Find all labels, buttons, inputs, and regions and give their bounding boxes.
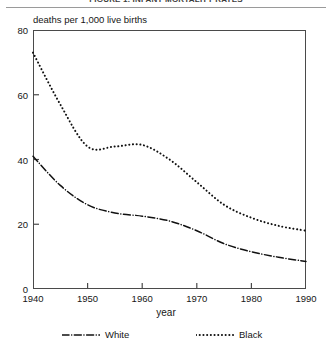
x-tick-label: 1940 xyxy=(13,293,53,304)
legend-entry-white: White xyxy=(62,329,129,340)
y-tick-label: 40 xyxy=(2,154,28,165)
x-tick-label: 1950 xyxy=(68,293,108,304)
legend-label: White xyxy=(105,329,129,340)
legend-swatch-dash-dot xyxy=(62,330,100,340)
x-tick-label: 1970 xyxy=(177,293,217,304)
legend-entry-black: Black xyxy=(196,329,262,340)
x-tick-label: 1990 xyxy=(286,293,326,304)
x-tick-label: 1960 xyxy=(122,293,162,304)
y-tick-label: 20 xyxy=(2,219,28,230)
tick-marks xyxy=(33,95,251,289)
chart-legend: WhiteBlack xyxy=(0,327,332,343)
y-tick-label: 80 xyxy=(2,25,28,36)
legend-label: Black xyxy=(239,329,262,340)
data-series-layer xyxy=(33,53,306,262)
x-tick-label: 1980 xyxy=(231,293,271,304)
legend-swatch-dotted xyxy=(196,330,234,340)
series-line-white xyxy=(33,156,306,261)
x-axis-label: year xyxy=(0,307,332,318)
y-tick-label: 60 xyxy=(2,89,28,100)
series-line-black xyxy=(33,53,306,231)
infant-mortality-figure: FIGURE 1. INFANT MORTALITY RATES deaths … xyxy=(0,0,332,349)
